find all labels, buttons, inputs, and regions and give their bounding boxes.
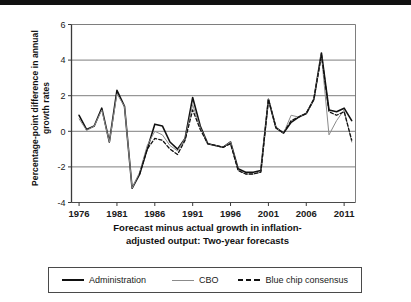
y-tick-label: -2	[57, 162, 65, 172]
legend-label-cbo: CBO	[199, 275, 219, 285]
legend-swatch-cbo	[172, 280, 194, 281]
x-tick-label: 2001	[258, 208, 280, 219]
series-line-cbo	[79, 55, 352, 189]
y-tick-label: 4	[60, 55, 65, 65]
legend-item-cbo: CBO	[172, 275, 219, 285]
x-axis-title-line2: adjusted output: Two-year forecasts	[55, 234, 360, 247]
y-tick-label: 6	[60, 20, 65, 30]
x-tick-marks	[79, 203, 344, 207]
y-tick-label: 2	[60, 91, 65, 101]
legend-label-blue-chip: Blue chip consensus	[265, 275, 348, 285]
x-tick-label: 1991	[182, 208, 204, 219]
x-tick-label: 1981	[106, 208, 128, 219]
x-tick-label: 1986	[144, 208, 165, 219]
legend-item-blue-chip: Blue chip consensus	[238, 275, 348, 285]
series-line-administration	[79, 53, 352, 188]
x-axis-title-line1: Forecast minus actual growth in inflatio…	[55, 221, 360, 234]
x-tick-label: 2006	[296, 208, 317, 219]
legend-label-administration: Administration	[89, 275, 146, 285]
data-series	[79, 53, 352, 188]
x-tick-label: 1976	[69, 208, 90, 219]
y-tick-label: -4	[57, 198, 65, 208]
y-tick-labels: -4-20246	[57, 20, 65, 208]
x-tick-label: 2011	[334, 208, 355, 219]
chart-figure: Percentage-point difference in annual gr…	[0, 5, 411, 302]
chart-legend: Administration CBO Blue chip consensus	[48, 267, 362, 293]
legend-item-administration: Administration	[62, 275, 146, 285]
legend-swatch-administration	[62, 279, 84, 281]
x-tick-labels: 19761981198619911996200120062011	[69, 208, 356, 219]
x-axis-title: Forecast minus actual growth in inflatio…	[55, 221, 360, 247]
x-tick-label: 1996	[220, 208, 241, 219]
series-line-blue-chip-consensus	[140, 55, 352, 174]
legend-swatch-blue-chip	[238, 279, 260, 281]
chart-svg: -4-20246 1976198119861991199620012006201…	[0, 5, 411, 220]
plot-area: -4-20246 1976198119861991199620012006201…	[0, 5, 411, 220]
y-tick-label: 0	[60, 127, 65, 137]
